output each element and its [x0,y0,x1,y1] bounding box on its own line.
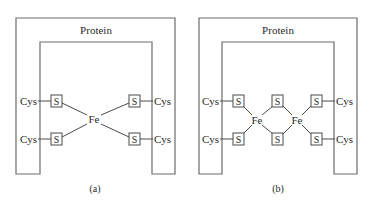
sulfur-atom: S [129,133,140,145]
iron-sulfur-diagram: Protein Cys Cys Cys Cys S S S S [0,0,369,210]
cys-label: Cys [20,133,37,145]
bond-s-fe [302,125,311,134]
cys-label: Cys [336,95,353,107]
bond-s-fe [262,125,273,134]
sulfur-atom: S [233,133,244,145]
cys-label: Cys [202,133,219,145]
sulfur-atom: S [311,133,322,145]
cys-label: Cys [202,95,219,107]
bridging-sulfur-atom: S [272,133,283,145]
caption-a: (a) [89,183,100,195]
protein-label-b: Protein [262,24,294,36]
iron-atom: Fe [292,114,303,126]
bridging-sulfur-atom: S [272,95,283,107]
svg-text:S: S [54,96,60,107]
bond-s-fe [302,106,311,115]
bond-s-fe [283,125,292,134]
svg-text:S: S [236,96,242,107]
protein-frame-a [16,18,175,174]
iron-atom: Fe [89,113,100,125]
panel-b: Protein Cys Cys Cys Cys S S [199,18,357,195]
svg-text:S: S [275,96,281,107]
sulfur-atom: S [233,95,244,107]
protein-label-a: Protein [80,24,112,36]
caption-b: (b) [272,183,284,195]
cys-label: Cys [154,133,171,145]
sulfur-atom: S [311,95,322,107]
cys-label: Cys [20,95,37,107]
cys-label: Cys [336,133,353,145]
bond-s-fe [62,103,87,115]
svg-text:S: S [314,96,320,107]
bond-s-fe [101,103,129,115]
svg-text:S: S [54,134,60,145]
svg-text:S: S [236,134,242,145]
bond-s-fe [62,124,87,137]
panel-a: Protein Cys Cys Cys Cys S S S S [16,18,175,195]
svg-text:S: S [314,134,320,145]
cys-label: Cys [154,95,171,107]
sulfur-atom: S [51,95,62,107]
svg-text:S: S [132,96,138,107]
bond-s-fe [101,124,129,137]
svg-text:S: S [132,134,138,145]
bond-s-fe [262,106,273,115]
sulfur-atom: S [51,133,62,145]
sulfur-atom: S [129,95,140,107]
svg-text:S: S [275,134,281,145]
iron-atom: Fe [252,114,263,126]
